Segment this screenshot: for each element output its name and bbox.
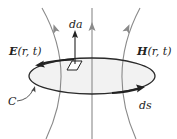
diagram-canvas: da ds C E(r, t) H(r, t) [0, 0, 177, 139]
label-e-field: E(r, t) [8, 45, 41, 58]
h-symbol: H [136, 45, 148, 58]
label-contour-c: C [8, 95, 17, 108]
contour-pointer [17, 90, 33, 101]
h-args: (r, t) [147, 45, 171, 58]
e-args: (r, t) [17, 45, 41, 58]
label-h-field: H(r, t) [136, 45, 171, 58]
label-da: da [69, 18, 83, 31]
ampere-loop-diagram: da ds C E(r, t) H(r, t) [0, 0, 177, 139]
label-ds: ds [139, 99, 152, 112]
